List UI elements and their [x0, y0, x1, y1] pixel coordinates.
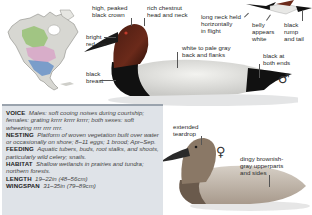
leader-crown: [131, 18, 132, 26]
label-flight-rump: black rump and tail: [284, 21, 304, 42]
female-canvasback-icon: [160, 130, 310, 212]
species-info-box: VOICE Males: soft cooing noises during c…: [2, 104, 163, 215]
info-feeding: FEEDING Aquatic tubers, buds, root stalk…: [6, 145, 159, 160]
leader-upperparts: [269, 175, 270, 187]
info-nesting: NESTING Platform of woven vegetation bui…: [6, 131, 159, 146]
label-teardrop: extended teardrop: [173, 123, 198, 137]
label-head-neck: rich chestnut head and neck: [147, 4, 188, 18]
female-symbol: ♀: [216, 145, 226, 158]
male-symbol: ♂: [278, 72, 290, 85]
north-america-map-icon: [4, 8, 82, 96]
info-length: LENGTH 19–22in (48–56cm): [6, 175, 159, 182]
leader-head-neck: [144, 18, 145, 26]
label-crown: high, peaked black crown: [92, 4, 127, 18]
label-flight-belly: belly appears white: [252, 21, 274, 42]
range-map: [4, 8, 82, 96]
info-wingspan: WINGSPAN 31–35in (79–89cm): [6, 182, 159, 189]
female-duck-illustration: [160, 130, 310, 212]
leader-back: [177, 52, 178, 68]
label-flight-neck: long neck held horizontally in flight: [201, 13, 241, 34]
leader-ends: [259, 64, 260, 78]
info-habitat: HABITAT Shallow wetlands in prairies and…: [6, 160, 159, 175]
label-eye: bright red eye: [86, 33, 107, 47]
label-back: white to pale gray back and flanks: [182, 44, 231, 58]
label-breast: black breast: [86, 70, 103, 84]
info-voice: VOICE Males: soft cooing noises during c…: [6, 109, 159, 131]
label-upperparts: dingy brownish- gray upperparts and side…: [240, 155, 283, 176]
leader-eye: [104, 37, 116, 38]
leader-breast: [100, 80, 116, 81]
leader-flight-rump: [302, 10, 303, 21]
label-ends: black at both ends: [263, 52, 290, 66]
leader-teardrop: [201, 136, 202, 145]
